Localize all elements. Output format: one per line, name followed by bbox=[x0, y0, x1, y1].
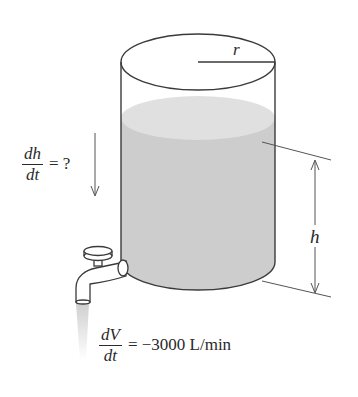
height-rate-numerator: dh bbox=[22, 145, 43, 165]
height-rate-value: = ? bbox=[49, 154, 70, 174]
water-stream bbox=[76, 303, 89, 360]
height-rate-denominator: dt bbox=[26, 165, 39, 184]
radius-label: r bbox=[233, 41, 240, 58]
down-arrow-icon bbox=[91, 133, 99, 196]
faucet-icon bbox=[76, 247, 128, 305]
height-label: h bbox=[310, 226, 320, 247]
volume-rate-value: = −3000 L/min bbox=[128, 335, 231, 355]
volume-rate-numerator: dV bbox=[99, 326, 122, 346]
water bbox=[121, 96, 275, 290]
volume-rate-denominator: dt bbox=[104, 346, 117, 365]
volume-rate-equation: dV dt = −3000 L/min bbox=[99, 326, 231, 365]
height-rate-equation: dh dt = ? bbox=[22, 145, 70, 184]
